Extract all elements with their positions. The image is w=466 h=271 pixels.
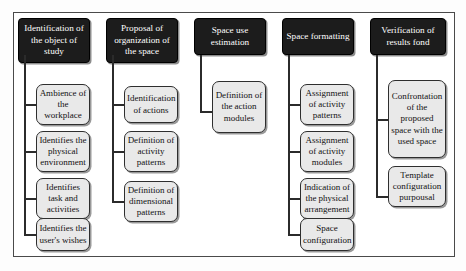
connector-stub [288,198,300,200]
connector-trunk [200,55,202,112]
connector-stub [24,104,36,106]
node-box[interactable]: Indication of the physical arrangement [300,178,354,219]
node-box[interactable]: Space configuration [300,218,354,251]
connector-stub [288,151,300,153]
node-box[interactable]: Ambience of the workplace [36,84,90,125]
connector-stub [288,104,300,106]
node-box[interactable]: Assignment of activity modules [300,131,354,172]
column-space-formatting: Space formatting Assignment of activity … [282,18,354,55]
connector-stub [376,119,388,121]
column-header-label: Space formatting [285,31,351,43]
column-header-box[interactable]: Space formatting [282,18,354,55]
column-header-label: Verification of results fond [373,25,443,48]
node-label: Identifies task and activities [39,182,87,216]
node-label: Definition of activity patterns [127,135,175,169]
node-box[interactable]: Definition of the action modules [212,81,266,133]
diagram-root: Identification of the object of study Am… [0,0,466,271]
node-label: Identification of actions [127,93,175,116]
node-box[interactable]: Identifies the physical environment [36,131,90,172]
node-box[interactable]: Identifies the user's wishes [36,218,90,251]
column-header-label: Space use estimation [197,25,263,48]
node-box[interactable]: Assignment of activity patterns [300,84,354,125]
column-header-box[interactable]: Space use estimation [194,18,266,55]
node-label: Ambience of the workplace [39,88,87,122]
connector-stub [376,196,388,198]
connector-trunk [376,55,378,198]
connector-stub [24,234,36,236]
connector-trunk [112,55,114,201]
node-label: Assignment of activity patterns [303,88,351,122]
column-header-box[interactable]: Verification of results fond [370,18,446,55]
node-label: Identifies the user's wishes [39,223,87,246]
column-header-label: Proposal of organization of the space [109,23,175,58]
node-box[interactable]: Template configuration purpousal [388,166,446,207]
node-label: Confrontation of the proposed space with… [391,91,443,147]
node-box[interactable]: Identification of actions [124,86,178,123]
connector-stub [200,111,212,113]
node-label: Definition of the action modules [215,90,263,124]
node-box[interactable]: Definition of activity patterns [124,131,178,172]
connector-trunk [288,55,290,234]
node-label: Indication of the physical arrangement [303,182,351,216]
node-label: Template configuration purpousal [391,170,443,204]
column-space-use-estimation: Space use estimation Definition of the a… [194,18,266,55]
node-label: Definition of dimensional patterns [127,185,175,219]
connector-stub [112,201,124,203]
node-box[interactable]: Confrontation of the proposed space with… [388,80,446,158]
connector-stub [288,234,300,236]
node-label: Identifies the physical environment [39,135,87,169]
connector-stub [24,151,36,153]
node-label: Assignment of activity modules [303,135,351,169]
connector-stub [112,104,124,106]
node-box[interactable]: Definition of dimensional patterns [124,181,178,222]
node-box[interactable]: Identifies task and activities [36,178,90,219]
connector-trunk [24,55,26,234]
connector-stub [24,198,36,200]
node-label: Space configuration [303,223,351,246]
column-proposal-of-organization-of-space: Proposal of organization of the space Id… [106,18,178,63]
column-verification-of-results-fond: Verification of results fond Confrontati… [370,18,446,55]
column-header-label: Identification of the object of study [21,23,87,58]
column-header-box[interactable]: Proposal of organization of the space [106,18,178,63]
connector-stub [112,151,124,153]
column-header-box[interactable]: Identification of the object of study [18,18,90,63]
column-identification-of-object-of-study: Identification of the object of study Am… [18,18,90,63]
